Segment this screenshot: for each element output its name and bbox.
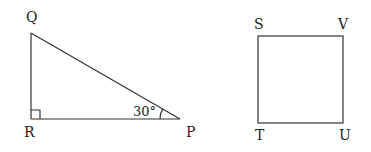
square-stuv: S V T U bbox=[254, 16, 351, 143]
square-outline bbox=[258, 36, 343, 123]
angle-label-p: 30° bbox=[133, 104, 156, 119]
triangle-pqr: 30° Q R P bbox=[24, 9, 195, 140]
vertex-label-q: Q bbox=[26, 9, 37, 25]
vertex-label-t: T bbox=[255, 127, 265, 143]
vertex-label-p: P bbox=[186, 124, 195, 140]
geometry-diagram: 30° Q R P S V T U bbox=[0, 0, 371, 152]
angle-arc-p bbox=[160, 109, 163, 119]
right-angle-marker bbox=[31, 110, 40, 119]
vertex-label-u: U bbox=[339, 127, 351, 143]
vertex-label-r: R bbox=[24, 124, 35, 140]
vertex-label-v: V bbox=[337, 16, 349, 32]
vertex-label-s: S bbox=[254, 16, 264, 32]
side-qp bbox=[31, 33, 180, 119]
